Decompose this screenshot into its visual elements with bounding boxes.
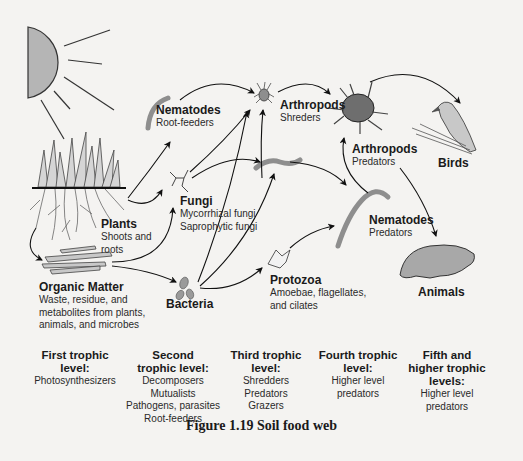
trophic-level-1: First trophic level: Photosynthesizers xyxy=(30,349,120,388)
node-birds: Birds xyxy=(438,156,469,170)
node-animals: Animals xyxy=(418,285,465,299)
node-nematodes-predators: Nematodes Predators xyxy=(369,213,434,240)
mite-icon xyxy=(254,82,274,103)
trophic-level-4: Fourth trophic level: Higher level preda… xyxy=(313,349,403,400)
node-fungi: Fungi Mycorrhizal fungi Saprophytic fung… xyxy=(180,194,257,233)
node-organic-matter: Organic Matter Waste, residue, and metab… xyxy=(39,280,145,332)
node-arthropods-shredders: Arthropods Shreders xyxy=(280,98,345,125)
bird-icon xyxy=(412,102,476,154)
fungi-hypha-icon xyxy=(170,170,188,192)
node-bacteria: Bacteria xyxy=(166,297,213,311)
sun-icon xyxy=(28,27,114,139)
trophic-level-2: Second trophic level: Decomposers Mutual… xyxy=(123,349,223,426)
trophic-level-3: Third trophic level: Shredders Predators… xyxy=(226,349,306,413)
rodent-icon xyxy=(400,245,474,278)
node-nematodes-root-feeders: Nematodes Root-feeders xyxy=(156,103,221,130)
trophic-level-5: Fifth and higher trophic levels: Higher … xyxy=(402,349,492,413)
figure-caption: Figure 1.19 Soil food web xyxy=(0,418,523,434)
node-plants: Plants Shoots and roots xyxy=(101,217,152,256)
node-arthropods-predators: Arthropods Predators xyxy=(352,142,417,169)
protozoa-icon xyxy=(268,250,290,268)
node-protozoa: Protozoa Amoebae, flagellates, and cilat… xyxy=(270,273,366,312)
worm-icon xyxy=(256,160,300,168)
